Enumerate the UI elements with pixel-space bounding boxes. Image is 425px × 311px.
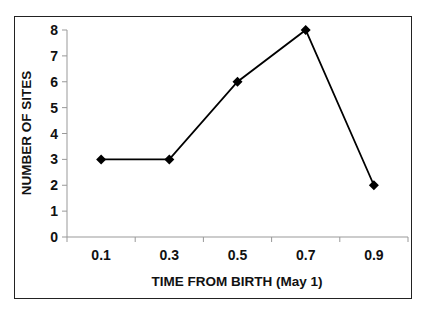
y-tick-label: 4 — [50, 126, 58, 142]
y-axis: 012345678 — [50, 22, 67, 245]
y-tick-label: 6 — [50, 74, 58, 90]
y-tick-label: 7 — [50, 48, 58, 64]
y-tick-label: 0 — [50, 229, 58, 245]
y-tick-label: 5 — [50, 100, 58, 116]
x-tick-label: 0.7 — [296, 247, 316, 263]
line-chart: 012345678 0.10.30.50.70.9 TIME FROM BIRT… — [0, 0, 425, 311]
series-line — [101, 30, 374, 185]
diamond-marker — [369, 180, 379, 190]
y-tick-label: 8 — [50, 22, 58, 38]
x-tick-label: 0.9 — [364, 247, 384, 263]
diamond-marker — [96, 154, 106, 164]
data-series — [96, 25, 379, 190]
x-tick-label: 0.3 — [160, 247, 180, 263]
x-tick-label: 0.1 — [91, 247, 111, 263]
y-tick-label: 1 — [50, 203, 58, 219]
y-tick-label: 2 — [50, 177, 58, 193]
x-axis: 0.10.30.50.70.9 — [67, 237, 408, 263]
x-axis-title: TIME FROM BIRTH (May 1) — [152, 274, 323, 289]
y-tick-label: 3 — [50, 151, 58, 167]
x-tick-label: 0.5 — [228, 247, 248, 263]
y-axis-title: NUMBER OF SITES — [19, 71, 34, 196]
